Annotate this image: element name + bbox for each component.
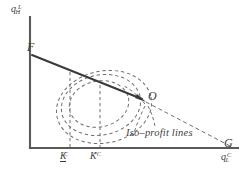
x-tick-label-k-underbar: KC [60, 152, 70, 162]
point-label-o: O [148, 90, 157, 102]
figure-svg [0, 0, 246, 173]
y-axis-label: qHL [11, 4, 24, 14]
point-label-f: F [27, 41, 34, 53]
budget-frontier-solid [32, 55, 142, 99]
budget-frontier-arrow-icon [135, 94, 146, 102]
budget-frontier-dashed-extension [146, 102, 232, 147]
guide-lines [70, 72, 100, 148]
iso-profit-curve-outer [50, 62, 159, 152]
iso-profit-annotation: Iso–profit lines [126, 128, 193, 139]
x-tick-label-k-star: K*C [90, 152, 103, 162]
whisker-right [148, 106, 155, 127]
figure-canvas: qHL qLC F O G Iso–profit lines KC K*C [0, 0, 246, 173]
iso-profit-curves [50, 62, 159, 152]
x-axis-label: qLC [221, 152, 234, 162]
point-label-g: G [224, 137, 233, 149]
